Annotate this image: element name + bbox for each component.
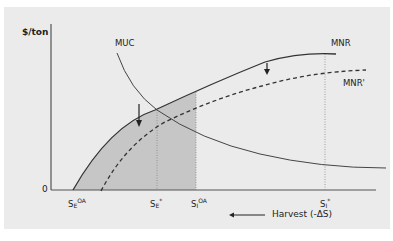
mnr-label: MNR [331,38,351,48]
x-axis-caption: Harvest (-ΔS) [272,209,332,219]
x-marker-se-oa: SEOA [68,197,86,209]
x-marker-se-star: SE* [150,197,162,209]
harvest-arrow-icon [229,213,265,218]
y-axis-label: $/ton [22,27,48,37]
origin-label: 0 [42,184,48,194]
x-marker-si-oa: SIOA [191,197,207,209]
shift-arrow-right [264,63,270,75]
marker-sup: * [327,197,330,204]
marker-sup: * [159,197,162,204]
muc-label: MUC [115,38,135,48]
mnr-prime-label: MNR' [343,78,365,88]
marker-sup: OA [77,197,86,204]
x-marker-si-star: SI* [320,197,330,209]
shaded-area [73,92,196,190]
marker-sup: OA [198,197,207,204]
